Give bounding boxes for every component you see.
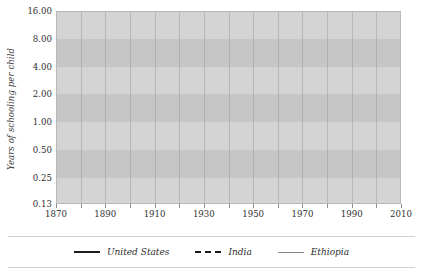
x-tick-mark: [56, 204, 57, 208]
legend-label: Ethiopia: [311, 247, 349, 257]
gridline-vertical: [204, 11, 205, 204]
x-tick-label: 1990: [332, 209, 372, 219]
line-chart: Years of schooling per child 16.008.004.…: [0, 0, 423, 273]
x-tick-mark: [204, 204, 205, 208]
gridline-vertical: [376, 11, 377, 204]
x-tick-mark: [229, 204, 230, 208]
x-tick-mark: [179, 204, 180, 208]
x-tick-label: 1890: [85, 209, 125, 219]
gridline-vertical: [229, 11, 230, 204]
legend-item-united-states[interactable]: United States: [74, 247, 170, 257]
x-tick-mark: [105, 204, 106, 208]
gridline-vertical: [130, 11, 131, 204]
x-tick-mark: [401, 204, 402, 208]
x-tick-label: 1950: [233, 209, 273, 219]
x-tick-label: 1910: [135, 209, 175, 219]
gridline-vertical: [56, 11, 57, 204]
x-tick-label: 1870: [36, 209, 76, 219]
gridline-vertical: [179, 11, 180, 204]
gridline-vertical: [105, 11, 106, 204]
x-tick-label: 2010: [381, 209, 421, 219]
legend-label: India: [228, 247, 251, 257]
plot-area: [56, 11, 401, 204]
gridline-vertical: [352, 11, 353, 204]
y-tick-label: 2.00: [18, 90, 52, 99]
y-axis-tick-labels: 16.008.004.002.001.000.500.250.13: [14, 0, 52, 215]
x-tick-mark: [130, 204, 131, 208]
y-tick-label: 8.00: [18, 35, 52, 44]
x-tick-mark: [253, 204, 254, 208]
gridline-vertical: [155, 11, 156, 204]
y-tick-label: 0.13: [18, 200, 52, 209]
chart-legend: United StatesIndiaEthiopia: [8, 236, 415, 268]
x-tick-label: 1970: [282, 209, 322, 219]
legend-item-india[interactable]: India: [195, 247, 251, 257]
x-tick-mark: [155, 204, 156, 208]
dashed-line-icon: [195, 247, 221, 257]
x-tick-mark: [278, 204, 279, 208]
x-tick-mark: [352, 204, 353, 208]
y-tick-label: 0.50: [18, 146, 52, 155]
x-tick-mark: [327, 204, 328, 208]
x-tick-mark: [81, 204, 82, 208]
legend-label: United States: [107, 247, 170, 257]
legend-item-ethiopia[interactable]: Ethiopia: [278, 247, 349, 257]
x-tick-mark: [302, 204, 303, 208]
gridline-vertical: [302, 11, 303, 204]
gridline-vertical: [278, 11, 279, 204]
gridline-vertical: [81, 11, 82, 204]
x-tick-mark: [376, 204, 377, 208]
y-tick-label: 1.00: [18, 118, 52, 127]
x-tick-label: 1930: [184, 209, 224, 219]
thin-line-icon: [278, 247, 304, 257]
y-tick-label: 16.00: [18, 7, 52, 16]
y-tick-label: 4.00: [18, 63, 52, 72]
y-tick-label: 0.25: [18, 174, 52, 183]
gridline-vertical: [253, 11, 254, 204]
solid-thick-line-icon: [74, 247, 100, 257]
gridline-vertical: [327, 11, 328, 204]
